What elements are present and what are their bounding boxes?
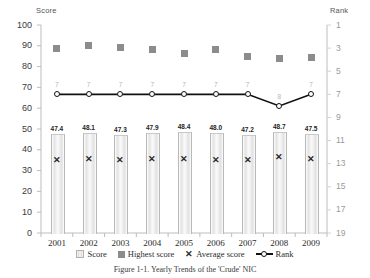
legend-item[interactable]: ✕Average score bbox=[185, 249, 244, 259]
right-axis-ticks bbox=[327, 25, 331, 233]
right-tick-label: 15 bbox=[336, 182, 356, 191]
left-tick-label: 100 bbox=[8, 21, 32, 30]
rank-marker bbox=[245, 91, 251, 97]
left-tick-label: 90 bbox=[8, 41, 32, 50]
bar-data-label: 47.5 bbox=[296, 125, 326, 132]
x-tick-label: 2009 bbox=[292, 238, 330, 248]
right-tick-label: 9 bbox=[336, 113, 356, 122]
bar bbox=[178, 132, 192, 234]
average-score-marker: ✕ bbox=[83, 155, 95, 164]
legend-label: Rank bbox=[276, 249, 294, 259]
highest-score-marker bbox=[181, 50, 188, 57]
highest-score-marker bbox=[85, 42, 92, 49]
rank-data-label: 7 bbox=[82, 81, 96, 88]
left-axis-ticks bbox=[37, 25, 41, 233]
bar-swatch-icon bbox=[76, 250, 84, 258]
bar-data-label: 48.7 bbox=[264, 123, 294, 130]
rank-data-label: 7 bbox=[177, 81, 191, 88]
rank-data-label: 7 bbox=[304, 81, 318, 88]
legend-item[interactable]: Score bbox=[76, 249, 106, 259]
bar-data-label: 48.4 bbox=[169, 123, 199, 130]
bar bbox=[210, 133, 224, 234]
average-score-marker: ✕ bbox=[178, 155, 190, 164]
highest-score-marker bbox=[244, 53, 251, 60]
bar bbox=[51, 134, 65, 234]
left-tick-label: 0 bbox=[8, 229, 32, 238]
highest-score-marker bbox=[212, 46, 219, 53]
left-tick-label: 10 bbox=[8, 208, 32, 217]
bar bbox=[114, 135, 128, 234]
legend-item[interactable]: Rank bbox=[256, 249, 294, 259]
average-score-marker: ✕ bbox=[51, 156, 63, 165]
left-tick-label: 80 bbox=[8, 62, 32, 71]
rank-data-label: 7 bbox=[50, 81, 64, 88]
rank-data-label: 7 bbox=[145, 81, 159, 88]
figure-caption: Figure 1-1. Yearly Trends of the 'Crude'… bbox=[0, 265, 370, 274]
bar-data-label: 47.2 bbox=[233, 126, 263, 133]
average-score-marker: ✕ bbox=[305, 155, 317, 164]
bar bbox=[242, 135, 256, 234]
rank-data-label: 7 bbox=[113, 81, 127, 88]
right-tick-label: 13 bbox=[336, 159, 356, 168]
legend-label: Average score bbox=[196, 249, 244, 259]
average-score-marker: ✕ bbox=[210, 156, 222, 165]
highest-score-marker bbox=[117, 44, 124, 51]
rank-data-label: 8 bbox=[272, 93, 286, 100]
right-tick-label: 1 bbox=[336, 21, 356, 30]
bar-data-label: 47.9 bbox=[137, 124, 167, 131]
right-tick-label: 17 bbox=[336, 205, 356, 214]
left-tick-label: 70 bbox=[8, 83, 32, 92]
right-tick-label: 3 bbox=[336, 44, 356, 53]
square-marker-icon bbox=[118, 251, 125, 258]
x-marker-icon: ✕ bbox=[185, 250, 193, 259]
chart-legend: ScoreHighest score✕Average scoreRank bbox=[0, 249, 370, 259]
line-circle-marker-icon bbox=[256, 250, 273, 258]
bar-data-label: 48.1 bbox=[74, 124, 104, 131]
highest-score-marker bbox=[308, 54, 315, 61]
left-tick-label: 30 bbox=[8, 166, 32, 175]
left-tick-label: 50 bbox=[8, 125, 32, 134]
left-tick-label: 60 bbox=[8, 104, 32, 113]
legend-label: Highest score bbox=[128, 249, 175, 259]
right-tick-label: 7 bbox=[336, 90, 356, 99]
highest-score-marker bbox=[149, 46, 156, 53]
highest-score-marker bbox=[53, 45, 60, 52]
left-tick-label: 20 bbox=[8, 187, 32, 196]
average-score-marker: ✕ bbox=[146, 155, 158, 164]
rank-data-label: 7 bbox=[241, 81, 255, 88]
bar bbox=[146, 133, 160, 234]
legend-item[interactable]: Highest score bbox=[118, 249, 175, 259]
left-tick-label: 40 bbox=[8, 145, 32, 154]
bar bbox=[83, 133, 97, 234]
rank-data-label: 7 bbox=[209, 81, 223, 88]
bar-data-label: 48.0 bbox=[201, 124, 231, 131]
rank-marker bbox=[86, 91, 92, 97]
bar-data-label: 47.3 bbox=[105, 126, 135, 133]
right-tick-label: 5 bbox=[336, 67, 356, 76]
legend-label: Score bbox=[87, 249, 106, 259]
average-score-marker: ✕ bbox=[114, 156, 126, 165]
right-tick-label: 19 bbox=[336, 229, 356, 238]
bar bbox=[273, 132, 287, 234]
chart-container: Score Rank 1009080706050403020100 135791… bbox=[0, 0, 370, 278]
right-tick-label: 11 bbox=[336, 136, 356, 145]
average-score-marker: ✕ bbox=[242, 156, 254, 165]
highest-score-marker bbox=[276, 55, 283, 62]
bar bbox=[305, 134, 319, 234]
average-score-marker: ✕ bbox=[273, 153, 285, 162]
bar-data-label: 47.4 bbox=[42, 125, 72, 132]
